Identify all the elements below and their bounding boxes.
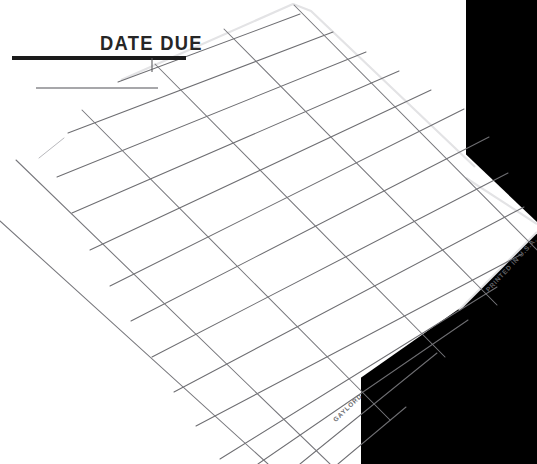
scanned-page: DATE DUE GAYLORD PRINTED IN U.S.A.	[0, 0, 537, 464]
scan-artwork	[0, 0, 537, 464]
date-due-heading: DATE DUE	[100, 32, 203, 55]
